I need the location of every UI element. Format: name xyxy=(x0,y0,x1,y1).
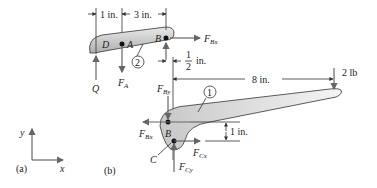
mechanics-diagram: y x (a) 1 in. 3 in. D A B 2 Q FA FBx xyxy=(0,0,377,188)
half-numerator: 1 xyxy=(186,49,191,60)
force-fa-label: FA xyxy=(117,77,129,90)
force-fcy-label: FCy xyxy=(178,161,194,174)
dim-a-to-b: 3 in. xyxy=(134,9,152,20)
part-b-label: (b) xyxy=(104,165,116,177)
point-a-label: A xyxy=(126,39,134,50)
x-axis-label: x xyxy=(59,163,65,174)
force-fbx-label-member-1: FBx xyxy=(138,128,153,141)
point-c-leader xyxy=(158,143,171,155)
point-b-label: B xyxy=(155,33,161,44)
load-label: 2 lb xyxy=(342,67,357,78)
point-b xyxy=(164,36,169,41)
point-b-label-member-1: B xyxy=(165,128,171,139)
force-q-label: Q xyxy=(92,83,100,94)
dim-length: 8 in. xyxy=(252,74,270,85)
member-2-id: 2 xyxy=(135,57,140,68)
point-c-label: C xyxy=(150,154,157,165)
part-a-label: (a) xyxy=(16,163,27,175)
half-denominator: 2 xyxy=(186,61,191,72)
point-a xyxy=(120,42,125,47)
half-unit: in. xyxy=(196,55,206,66)
dim-vertical: 1 in. xyxy=(230,126,248,137)
force-fcx-label: FCx xyxy=(192,147,208,160)
force-fbx-label: FBx xyxy=(203,33,218,46)
member-2: 1 in. 3 in. D A B 2 Q FA FBx xyxy=(88,8,218,94)
length-dimension: 8 in. xyxy=(173,74,333,85)
force-fby-label: FBy xyxy=(156,83,171,96)
member-1: 1 2 lb B C 1 in. FBy FBx FCx FCy xyxy=(138,67,357,174)
member-2-leader xyxy=(137,44,143,56)
member-1-id: 1 xyxy=(207,87,212,98)
dim-d-to-a: 1 in. xyxy=(100,9,118,20)
y-axis-label: y xyxy=(19,127,25,138)
point-d-label: D xyxy=(101,39,110,50)
